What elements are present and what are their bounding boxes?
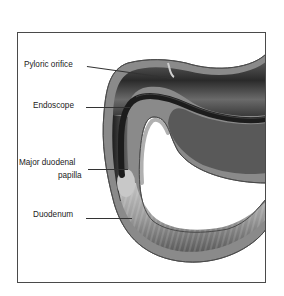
label-major-duodenal-papilla-line2: papilla bbox=[58, 171, 82, 181]
label-endoscope: Endoscope bbox=[33, 101, 74, 111]
duodenum-leader bbox=[86, 218, 132, 219]
label-duodenum: Duodenum bbox=[33, 210, 73, 220]
major-duodenal-papilla-leader bbox=[88, 169, 128, 170]
label-major-duodenal-papilla-line1: Major duodenal bbox=[19, 158, 75, 168]
label-pyloric-orifice: Pyloric orifice bbox=[24, 60, 73, 70]
endoscope-leader bbox=[86, 107, 130, 108]
